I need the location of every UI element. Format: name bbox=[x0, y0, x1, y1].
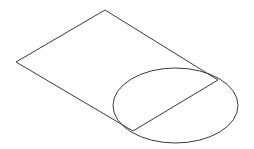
diagram-svg bbox=[0, 0, 254, 149]
parallelogram-outline bbox=[16, 10, 218, 131]
diagonal-chord-line bbox=[133, 80, 218, 131]
diagram-figure bbox=[0, 0, 254, 149]
